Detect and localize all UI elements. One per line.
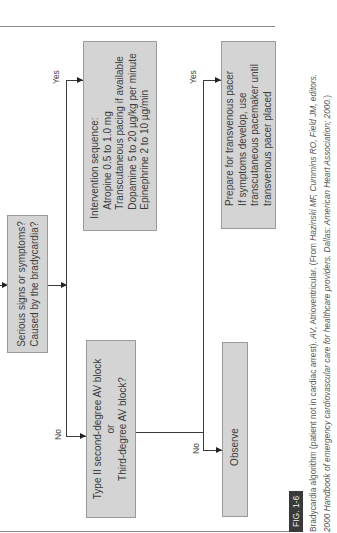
caption-text: Atrioventricular. (From — [308, 241, 318, 327]
node-serious-signs: Serious signs or symptoms? Caused by the… — [7, 215, 48, 353]
node-line: Prepare for transvenous pacer — [224, 64, 237, 206]
caption-source: 2000 Handbook of emergency cardiovascula… — [322, 98, 332, 532]
node-prepare-text: Prepare for transvenous pacer If symptom… — [224, 64, 274, 206]
node-line: Atropine 0.5 to 1.0 mg — [101, 53, 114, 218]
caption-text: ) — [322, 95, 332, 98]
node-line: transvenous pacer placed — [261, 64, 274, 206]
top-rule — [0, 26, 275, 27]
node-observe: Observe — [222, 342, 248, 517]
node-avblock-text: Type II second-degree AV block or Third-… — [92, 359, 130, 499]
figure-caption: FIG. 1-6 Bradycardia algorithm (patient … — [289, 74, 334, 532]
node-line: Type II second-degree AV block — [92, 359, 105, 499]
trunk2-line — [203, 80, 204, 451]
node-prepare-pacer: Prepare for transvenous pacer If symptom… — [221, 41, 276, 229]
figure-label: FIG. 1-6 — [289, 491, 303, 532]
node-av-block: Type II second-degree AV block or Third-… — [86, 340, 136, 518]
edge-label-yes-2: Yes — [188, 70, 198, 84]
edge-label-yes-1: Yes — [51, 70, 61, 84]
node-line: Third-degree AV block? — [117, 359, 130, 499]
caption-abbr: AV, — [308, 326, 318, 338]
node-line: Intervention sequence: — [89, 53, 102, 218]
node-line: Serious signs or symptoms? — [15, 221, 28, 347]
node-line: Observe — [229, 428, 242, 466]
edge-label-no-1: No — [53, 429, 63, 440]
edge-label-no-2: No — [191, 443, 201, 454]
trunk-line — [66, 80, 67, 437]
node-line: Epinephrine 2 to 10 µg/min — [139, 53, 152, 218]
avblock-to-trunk2 — [136, 432, 203, 433]
bottom-rule — [0, 531, 290, 532]
node-observe-text: Observe — [229, 428, 242, 466]
node-line: Dopamine 5 to 20 µg/kg per minute — [126, 53, 139, 218]
caption-text: Bradycardia algorithm (patient not in ca… — [308, 339, 318, 532]
node-line: transcutaneous pacemaker until — [249, 64, 262, 206]
node-intervention: Intervention sequence: Atropine 0.5 to 1… — [83, 41, 157, 231]
node-line: Transcutaneous pacing if available — [114, 53, 127, 218]
node-line: If symptoms develop, use — [236, 64, 249, 206]
node-line: Caused by the bradycardia? — [28, 221, 41, 347]
node-serious-text: Serious signs or symptoms? Caused by the… — [15, 221, 40, 347]
node-line: or — [105, 359, 118, 499]
caption-source: Hazinski MF, Cummins RO, Field JM, edito… — [308, 74, 318, 241]
node-intervention-text: Intervention sequence: Atropine 0.5 to 1… — [89, 53, 152, 218]
